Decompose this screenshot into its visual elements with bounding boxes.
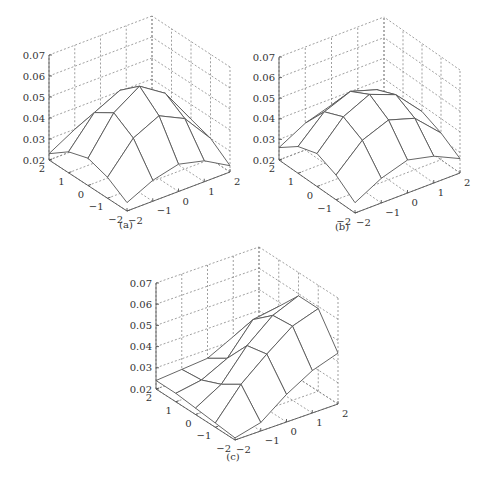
surface-plot-a: 0.020.030.040.050.060.07−2−1012−2−1012(a… bbox=[23, 16, 241, 230]
z-tick-label: 0.06 bbox=[130, 299, 152, 310]
x-tick-label: 0 bbox=[412, 197, 418, 208]
y-tick-label: 0 bbox=[307, 190, 313, 201]
x-tick-label: −1 bbox=[265, 435, 280, 446]
z-tick-label: 0.06 bbox=[253, 72, 275, 83]
x-tick-label: 0 bbox=[183, 196, 189, 207]
y-tick bbox=[196, 414, 199, 415]
y-tick-label: 1 bbox=[165, 405, 171, 416]
y-tick-label: 2 bbox=[39, 163, 45, 174]
y-tick-label: 2 bbox=[146, 392, 152, 403]
y-tick bbox=[298, 172, 301, 173]
z-tick-label: 0.07 bbox=[130, 278, 152, 289]
z-tick-label: 0.05 bbox=[23, 92, 45, 103]
y-tick-label: −1 bbox=[317, 203, 332, 214]
x-tick-label: 0 bbox=[291, 426, 297, 437]
x-tick-label: 1 bbox=[208, 186, 214, 197]
y-tick bbox=[69, 172, 72, 173]
x-tick-label: 1 bbox=[316, 417, 322, 428]
x-tick-label: 2 bbox=[234, 176, 240, 187]
y-tick bbox=[336, 199, 339, 200]
y-tick-label: −1 bbox=[197, 430, 212, 441]
y-tick bbox=[88, 185, 91, 186]
z-tick-label: 0.04 bbox=[253, 113, 275, 124]
y-tick-label: 0 bbox=[185, 418, 191, 429]
y-tick-label: 2 bbox=[269, 163, 275, 174]
z-tick-label: 0.06 bbox=[23, 71, 45, 82]
x-tick-label: 2 bbox=[464, 177, 470, 188]
z-tick-label: 0.07 bbox=[253, 52, 275, 63]
y-tick bbox=[355, 212, 358, 213]
z-tick-label: 0.05 bbox=[253, 93, 275, 104]
panel-caption: (c) bbox=[226, 451, 240, 462]
y-tick bbox=[215, 426, 218, 427]
z-tick-label: 0.04 bbox=[23, 113, 45, 124]
x-tick-label: −1 bbox=[385, 207, 400, 218]
y-tick bbox=[317, 186, 320, 187]
y-tick-label: 1 bbox=[288, 176, 294, 187]
y-tick-label: 0 bbox=[78, 189, 84, 200]
y-tick-label: −1 bbox=[89, 201, 104, 212]
x-tick-label: −2 bbox=[356, 217, 371, 228]
z-tick-label: 0.03 bbox=[253, 134, 275, 145]
z-tick-label: 0.03 bbox=[23, 134, 45, 145]
z-tick-label: 0.04 bbox=[130, 341, 152, 352]
z-tick-label: 0.07 bbox=[23, 50, 45, 61]
x-tick-label: 1 bbox=[438, 187, 444, 198]
surface-plot-b: 0.020.030.040.050.060.07−2−1012−2−1012(b… bbox=[253, 17, 471, 232]
figure-canvas: 0.020.030.040.050.060.07−2−1012−2−1012(a… bbox=[0, 0, 490, 487]
z-tick-label: 0.05 bbox=[130, 320, 152, 331]
y-tick bbox=[108, 197, 111, 198]
z-tick-label: 0.03 bbox=[130, 362, 152, 373]
y-tick bbox=[176, 401, 179, 402]
x-tick-label: −1 bbox=[157, 205, 172, 216]
surface-plot-c: 0.020.030.040.050.060.07−2−1012−2−1012(c… bbox=[130, 247, 349, 462]
panel-caption: (b) bbox=[335, 221, 349, 232]
y-tick-label: 1 bbox=[58, 176, 64, 187]
panel-caption: (a) bbox=[119, 219, 133, 230]
x-tick-label: 2 bbox=[342, 408, 348, 419]
